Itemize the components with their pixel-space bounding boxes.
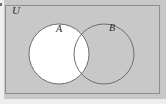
set-b-label: B bbox=[109, 23, 115, 33]
venn-diagram-figure: U A B bbox=[0, 0, 166, 104]
venn-circles-svg bbox=[0, 0, 166, 104]
universal-set-label: U bbox=[12, 5, 20, 16]
set-a-label: A bbox=[56, 24, 62, 34]
